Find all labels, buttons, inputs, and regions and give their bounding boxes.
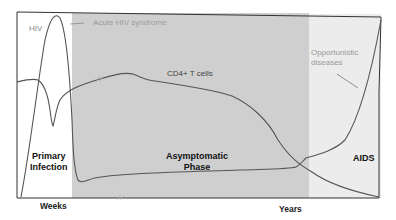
primary-label-line2: Infection <box>30 162 68 173</box>
asym-label-line1: Asymptomatic <box>166 151 228 162</box>
primary-infection-label: Primary Infection <box>30 151 68 173</box>
asym-label-line2: Phase <box>166 162 228 173</box>
cd4-label: CD4+ T cells <box>167 69 213 78</box>
asymptomatic-phase-label: Asymptomatic Phase <box>166 151 228 173</box>
opportunistic-label: Opportunistic <box>311 48 358 57</box>
acute-hiv-syndrome-label: Acute HIV syndrome <box>93 18 166 27</box>
hiv-label: HIV <box>29 24 42 33</box>
years-label: Years <box>279 204 302 214</box>
primary-label-line1: Primary <box>30 151 68 162</box>
aids-region <box>309 14 381 198</box>
hiv-progression-diagram <box>0 0 396 220</box>
weeks-label: Weeks <box>40 201 67 211</box>
aids-label: AIDS <box>353 153 375 164</box>
diseases-label: diseases <box>311 58 343 67</box>
